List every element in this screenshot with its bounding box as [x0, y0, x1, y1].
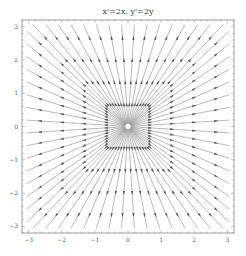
arrowhead-icon: [81, 58, 84, 62]
arrowhead-icon: [171, 191, 174, 195]
arrowhead-icon: [156, 169, 159, 173]
arrowhead-icon: [82, 112, 86, 114]
arrowhead-icon: [77, 36, 80, 40]
arrowhead-icon: [102, 169, 105, 173]
arrowhead-icon: [147, 191, 149, 195]
arrowhead-icon: [104, 113, 108, 116]
arrowhead-icon: [120, 147, 122, 151]
arrowhead-icon: [38, 142, 42, 144]
arrowhead-icon: [114, 80, 116, 84]
arrowhead-icon: [38, 76, 42, 79]
arrowhead-icon: [170, 106, 174, 109]
arrowhead-icon: [112, 103, 115, 107]
arrowhead-icon: [214, 76, 218, 79]
arrowhead-icon: [170, 95, 174, 98]
arrowhead-icon: [60, 80, 64, 83]
arrowhead-icon: [104, 129, 108, 131]
arrowhead-icon: [192, 80, 196, 83]
arrowhead-icon: [107, 58, 109, 62]
arrowhead-icon: [192, 154, 196, 157]
stream-plot: x'=2x, y'=2y −3−2−10123 −3−2−10123: [0, 0, 246, 256]
arrowhead-icon: [214, 87, 218, 90]
arrowhead-icon: [131, 147, 133, 151]
arrowhead-icon: [187, 36, 190, 40]
arrowhead-icon: [82, 144, 86, 147]
arrowhead-icon: [155, 191, 158, 195]
arrowhead-icon: [192, 162, 196, 165]
arrowhead-icon: [154, 213, 156, 217]
arrowhead-icon: [170, 133, 174, 135]
arrowhead-icon: [104, 134, 108, 137]
arrowhead-icon: [77, 213, 80, 217]
arrowhead-icon: [82, 139, 86, 141]
arrowhead-icon: [89, 36, 92, 40]
arrowhead-icon: [98, 191, 101, 195]
arrowhead-icon: [151, 80, 154, 84]
arrowhead-icon: [60, 154, 64, 157]
arrowhead-icon: [117, 102, 120, 106]
arrowhead-icon: [115, 191, 117, 195]
arrowhead-icon: [133, 102, 135, 106]
x-tick-label: 0: [126, 236, 130, 243]
arrowhead-icon: [82, 149, 86, 152]
arrowhead-icon: [38, 163, 42, 166]
arrowhead-icon: [38, 185, 42, 188]
arrowhead-icon: [148, 129, 152, 131]
arrowhead-icon: [89, 213, 92, 217]
arrowhead-icon: [148, 137, 152, 140]
arrowhead-icon: [163, 58, 166, 62]
streamlines: [27, 25, 230, 229]
arrowhead-icon: [170, 149, 174, 152]
arrowhead-icon: [170, 117, 174, 119]
arrowhead-icon: [135, 169, 137, 173]
arrowhead-icon: [148, 140, 152, 143]
x-tick-label: 3: [225, 236, 229, 243]
arrowhead-icon: [131, 102, 133, 106]
arrowhead-icon: [154, 36, 156, 40]
x-tick-label: 2: [192, 236, 196, 243]
arrowhead-icon: [148, 119, 152, 121]
arrowhead-icon: [214, 64, 218, 67]
arrowhead-icon: [115, 102, 118, 106]
arrowhead-icon: [60, 113, 64, 115]
arrowhead-icon: [114, 169, 116, 173]
arrowhead-icon: [136, 146, 139, 150]
x-tick-label: −2: [57, 236, 66, 243]
arrowhead-icon: [96, 80, 99, 84]
arrowhead-icon: [171, 58, 174, 62]
arrowhead-icon: [139, 191, 141, 195]
arrowhead-icon: [108, 169, 111, 173]
arrowhead-icon: [82, 95, 86, 98]
arrowhead-icon: [104, 119, 108, 121]
arrowhead-icon: [214, 153, 218, 155]
arrowhead-icon: [143, 213, 145, 217]
y-tick-label: 0: [14, 123, 18, 130]
x-axis-tick-labels: −3−2−10123: [24, 236, 229, 243]
arrowhead-icon: [192, 88, 196, 91]
arrowhead-icon: [107, 191, 109, 195]
arrowhead-icon: [192, 170, 196, 173]
y-tick-label: −3: [9, 222, 18, 229]
arrowhead-icon: [108, 80, 111, 84]
y-tick-label: 3: [14, 23, 18, 30]
arrowhead-icon: [104, 110, 108, 113]
arrowhead-icon: [214, 163, 218, 166]
arrowhead-icon: [60, 88, 64, 91]
arrowhead-icon: [119, 80, 121, 84]
arrowhead-icon: [148, 116, 152, 119]
arrowhead-icon: [214, 109, 218, 111]
arrowhead-icon: [96, 169, 99, 173]
arrowhead-icon: [82, 106, 86, 109]
arrowhead-icon: [66, 36, 69, 40]
arrowhead-icon: [170, 155, 174, 158]
arrowhead-icon: [176, 213, 179, 217]
arrowhead-icon: [104, 116, 108, 119]
axis-ticks: [22, 20, 234, 233]
arrowhead-icon: [90, 191, 93, 195]
arrowhead-icon: [192, 113, 196, 115]
arrowhead-icon: [141, 146, 144, 150]
arrowhead-icon: [192, 137, 196, 139]
arrowhead-icon: [214, 142, 218, 144]
arrowhead-icon: [82, 117, 86, 119]
arrowhead-icon: [151, 169, 154, 173]
